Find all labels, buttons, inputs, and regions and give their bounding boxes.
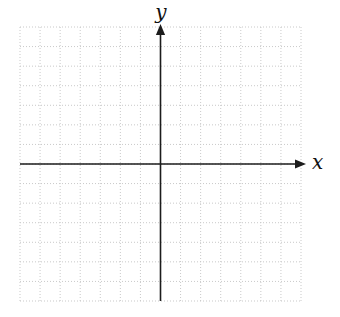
y-axis-label: y	[154, 0, 167, 24]
coordinate-plane: y x	[0, 0, 340, 317]
x-axis-arrowhead-icon	[295, 159, 306, 168]
y-axis-arrowhead-icon	[156, 24, 165, 35]
coordinate-plane-svg: y x	[0, 0, 340, 317]
x-axis-label: x	[312, 150, 323, 174]
axes	[20, 24, 306, 301]
